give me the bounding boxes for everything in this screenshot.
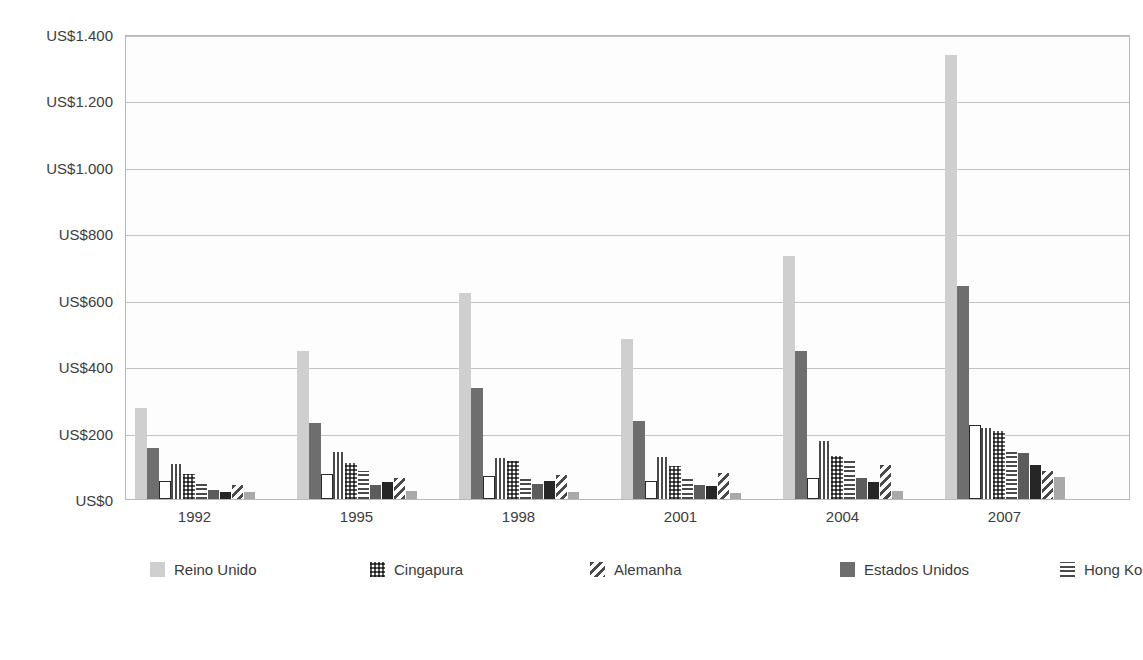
legend-item-label: Alemanha [614,562,682,577]
chart-legend: Reino UnidoCingapuraAlemanhaEstados Unid… [150,556,1110,582]
bar [1054,477,1066,499]
bar [345,463,357,499]
bar [556,475,568,499]
bar [694,485,706,499]
y-axis-tick-label: US$0 [0,492,113,509]
bar [1006,449,1018,499]
bar [831,456,843,499]
bar [706,486,718,499]
bar [1042,471,1054,499]
bar [321,474,333,499]
bar [807,478,819,499]
bar [621,339,633,499]
y-axis-tick-label: US$1.400 [0,27,113,44]
bar [856,478,868,499]
bar [568,492,580,499]
legend-item-us[interactable]: Estados Unidos [840,562,1060,577]
bar [1030,465,1042,499]
legend-swatch-icon [590,562,605,577]
bar [196,483,208,499]
bar [730,493,742,499]
bar [981,428,993,499]
y-axis-tick-label: US$1.200 [0,93,113,110]
bar [297,351,309,499]
bar [171,464,183,499]
bar [718,473,730,499]
bar [471,388,483,499]
x-axis-tick-label: 1998 [502,508,535,525]
bar [657,457,669,499]
x-axis-tick-label: 2007 [988,508,1021,525]
bar [459,293,471,499]
bar [394,478,406,499]
bar [309,423,321,499]
legend-swatch-icon [1060,562,1075,577]
legend-item-label: Cingapura [394,562,463,577]
bar [669,466,681,499]
bar [1018,453,1030,500]
bar-group [297,36,418,499]
bar [520,479,532,499]
x-axis-tick-label: 1992 [178,508,211,525]
bar [783,256,795,499]
bar-group [135,36,256,499]
y-axis-tick-label: US$400 [0,359,113,376]
bar [370,485,382,499]
legend-item-label: Estados Unidos [864,562,969,577]
bar-group [459,36,580,499]
bar [945,55,957,499]
bar [220,492,232,499]
bar [382,482,394,499]
bar [645,481,657,499]
bar [358,471,370,499]
bar [819,441,831,499]
bar [880,465,892,499]
legend-swatch-icon [840,562,855,577]
bar [868,482,880,499]
y-axis-tick-label: US$800 [0,226,113,243]
x-axis-tick-label: 2001 [664,508,697,525]
bar [135,408,147,499]
x-axis-tick-label: 1995 [340,508,373,525]
bar [532,484,544,499]
legend-item-label: Hong Kong [1084,562,1143,577]
bar-group [945,36,1066,499]
legend-item-hk[interactable]: Hong Kong [1060,562,1143,577]
bar [483,476,495,499]
y-axis-tick-label: US$600 [0,292,113,309]
bar [232,485,244,499]
bar-chart: US$0US$200US$400US$600US$800US$1.000US$1… [0,0,1143,660]
bar [682,477,694,499]
bar [495,458,507,499]
bar [544,481,556,499]
bar [993,431,1005,499]
y-axis-tick-label: US$200 [0,425,113,442]
bars-layer [126,36,1129,499]
bar [208,490,220,499]
bar [333,452,345,499]
bar [244,492,256,499]
legend-swatch-icon [150,562,165,577]
bar [844,460,856,499]
legend-item-sg[interactable]: Cingapura [370,562,590,577]
plot-area [125,35,1130,500]
bar [406,491,418,499]
bar [633,421,645,499]
bar [795,351,807,499]
bar [159,481,171,499]
bar [957,286,969,499]
legend-swatch-icon [370,562,385,577]
bar-group [621,36,742,499]
legend-item-uk[interactable]: Reino Unido [150,562,370,577]
bar-group [783,36,904,499]
legend-item-label: Reino Unido [174,562,257,577]
y-axis-tick-label: US$1.000 [0,159,113,176]
bar [892,491,904,499]
x-axis-tick-label: 2004 [826,508,859,525]
legend-item-de[interactable]: Alemanha [590,562,840,577]
bar [183,474,195,499]
bar [147,448,159,499]
bar [507,461,519,499]
bar [969,425,981,499]
